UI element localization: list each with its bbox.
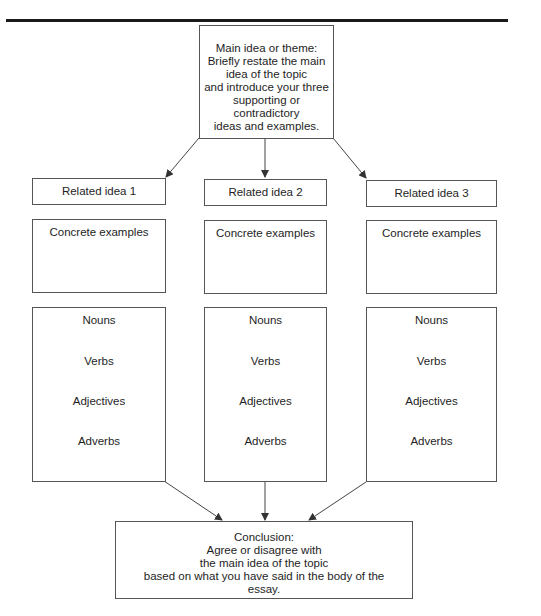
conclusion-box: Conclusion: Agree or disagree with the m…	[115, 521, 413, 599]
conclusion-line: based on what you have said in the body …	[116, 570, 412, 583]
concrete-examples-2-box: Concrete examples	[204, 220, 327, 294]
word-types-2-box: Nouns Verbs Adjectives Adverbs	[204, 307, 327, 482]
nouns-label: Nouns	[367, 314, 496, 327]
main-idea-line: ideas and examples.	[200, 120, 333, 133]
concrete-examples-3-label: Concrete examples	[382, 227, 481, 239]
word-types-3-box: Nouns Verbs Adjectives Adverbs	[366, 307, 497, 482]
related-idea-1-label: Related idea 1	[62, 185, 136, 197]
main-idea-box: Main idea or theme: Briefly restate the …	[199, 25, 334, 139]
arrow-main-to-idea-3	[333, 138, 366, 178]
concrete-examples-1-box: Concrete examples	[32, 219, 166, 293]
main-idea-line: Briefly restate the main	[200, 55, 333, 68]
adjectives-label: Adjectives	[367, 395, 496, 408]
arrow-col-1-to-conclusion	[164, 481, 222, 520]
nouns-label: Nouns	[33, 314, 165, 327]
related-idea-2-label: Related idea 2	[228, 186, 302, 198]
main-idea-line: supporting or	[200, 94, 333, 107]
word-types-1-box: Nouns Verbs Adjectives Adverbs	[32, 307, 166, 482]
verbs-label: Verbs	[367, 355, 496, 368]
main-idea-line: and introduce your three	[200, 81, 333, 94]
conclusion-line: the main idea of the topic	[116, 557, 412, 570]
arrow-col-3-to-conclusion	[309, 482, 366, 520]
related-idea-3-box: Related idea 3	[366, 180, 497, 207]
concrete-examples-2-label: Concrete examples	[216, 227, 315, 239]
adverbs-label: Adverbs	[205, 435, 326, 448]
concrete-examples-3-box: Concrete examples	[366, 220, 497, 294]
nouns-label: Nouns	[205, 314, 326, 327]
related-idea-2-box: Related idea 2	[204, 179, 327, 206]
main-idea-line: contradictory	[200, 107, 333, 120]
conclusion-line: Conclusion:	[116, 531, 412, 544]
verbs-label: Verbs	[205, 355, 326, 368]
adverbs-label: Adverbs	[367, 435, 496, 448]
main-idea-line: Main idea or theme:	[200, 42, 333, 55]
verbs-label: Verbs	[33, 355, 165, 368]
main-idea-line: idea of the topic	[200, 68, 333, 81]
adjectives-label: Adjectives	[33, 395, 165, 408]
adjectives-label: Adjectives	[205, 395, 326, 408]
conclusion-line: essay.	[116, 583, 412, 596]
related-idea-3-label: Related idea 3	[394, 187, 468, 199]
concrete-examples-1-label: Concrete examples	[49, 226, 148, 238]
adverbs-label: Adverbs	[33, 435, 165, 448]
conclusion-line: Agree or disagree with	[116, 544, 412, 557]
top-divider-rule	[6, 19, 508, 22]
arrow-main-to-idea-1	[166, 138, 199, 177]
related-idea-1-box: Related idea 1	[32, 178, 166, 205]
